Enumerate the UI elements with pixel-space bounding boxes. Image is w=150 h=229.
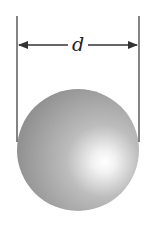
sphere [17,89,139,211]
diameter-label: d [72,33,84,55]
sphere-diameter-diagram: d [0,0,150,229]
